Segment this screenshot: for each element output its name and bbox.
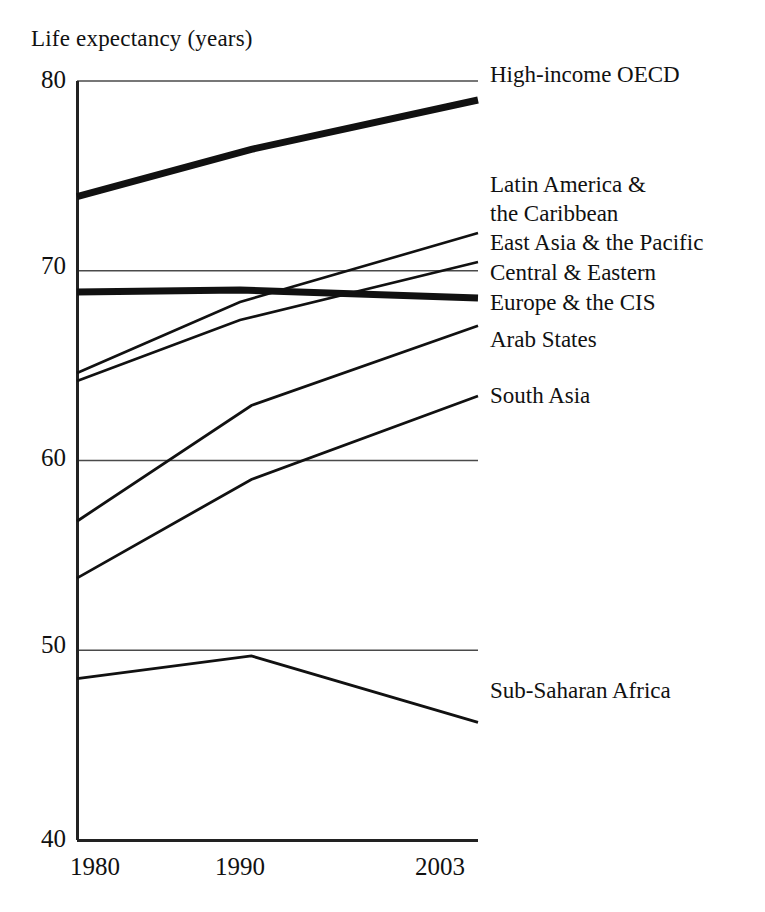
y-tick-label-50: 50 [8, 632, 66, 657]
y-tick-label-80: 80 [8, 67, 66, 92]
series-label-latin-america-caribbean-line2: the Caribbean [490, 199, 618, 228]
series-label-east-asia-pacific: East Asia & the Pacific [490, 228, 703, 257]
series-label-sub-saharan-africa: Sub-Saharan Africa [490, 676, 671, 705]
series-line-east-asia-pacific [77, 262, 478, 381]
y-tick-label-70: 70 [8, 253, 66, 278]
y-tick-label-60: 60 [8, 445, 66, 470]
gridlines [77, 81, 478, 650]
series-label-central-eastern-europe-cis-line2: Europe & the CIS [490, 288, 655, 317]
series-lines [77, 100, 478, 722]
line-chart-plot [0, 0, 765, 912]
series-line-south-asia [77, 396, 478, 578]
x-tick-label-1990: 1990 [185, 854, 295, 879]
x-tick-label-1980: 1980 [40, 854, 150, 879]
series-label-high-income-oecd: High-income OECD [490, 60, 680, 89]
y-tick-label-40: 40 [8, 826, 66, 851]
series-label-south-asia: South Asia [490, 381, 590, 410]
series-line-high-income-oecd [77, 100, 478, 197]
series-line-sub-saharan-africa [77, 656, 478, 722]
chart-page: Life expectancy (years) 80 70 60 50 [0, 0, 765, 912]
series-line-latin-america-caribbean [77, 233, 478, 373]
series-label-latin-america-caribbean-line1: Latin America & [490, 170, 646, 199]
series-line-arab-states [77, 326, 478, 521]
series-line-central-eastern-europe-cis [77, 290, 478, 298]
series-label-central-eastern-europe-cis-line1: Central & Eastern [490, 258, 656, 287]
x-tick-label-2003: 2003 [385, 854, 495, 879]
series-label-arab-states: Arab States [490, 325, 597, 354]
